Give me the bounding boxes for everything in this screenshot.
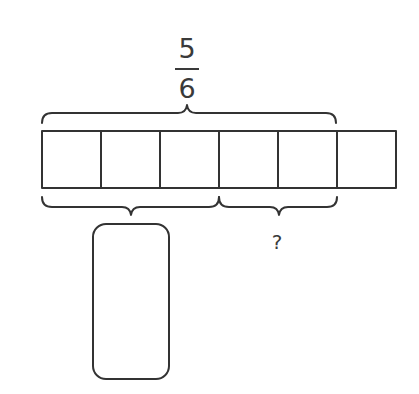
fraction-denominator: 6 [167, 75, 207, 102]
unknown-label: ? [262, 232, 292, 252]
tape-diagram-canvas [0, 0, 419, 394]
answer-box[interactable] [93, 224, 169, 379]
fraction-bar [175, 68, 199, 70]
lower-left-brace [42, 197, 219, 215]
top-brace [42, 105, 336, 123]
lower-right-brace [219, 197, 337, 215]
fraction-numerator: 5 [167, 35, 207, 62]
